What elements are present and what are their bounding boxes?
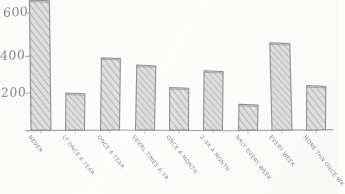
x-axis-label-lt-once-a-year: LT ONCE A YEAR	[61, 134, 96, 176]
x-axis-label-nrly-every-week: NRLY EVERY WEEK	[234, 134, 273, 181]
x-axis-label-once-a-month: ONCE A MONTH	[165, 134, 199, 175]
x-axis-label-more-thn-once-wk: MORE THN ONCE WK	[302, 134, 345, 187]
x-axis-label-once-a-year: ONCE A YEAR	[96, 134, 126, 170]
x-axis-label-sevrl-times-a-yr: SEVRL TIMES A YR	[131, 134, 170, 181]
x-axis-label-every-week: EVERY WEEK	[268, 134, 296, 168]
x-axis-label-2-3x-a-month: 2-3X A MONTH	[199, 134, 231, 172]
x-axis-label-never: NEVER	[27, 134, 44, 153]
